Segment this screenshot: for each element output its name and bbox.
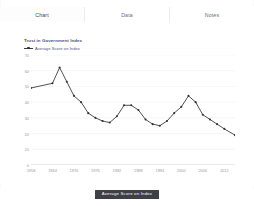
chart-plot-area[interactable] [31, 55, 235, 165]
x-axis-tick: 1976 [86, 168, 104, 173]
line-chart-svg [31, 55, 235, 165]
x-axis-tick: 1958 [22, 168, 40, 173]
y-axis-tick: 20 [18, 131, 29, 136]
x-axis-tick: 2012 [215, 168, 233, 173]
tab-notes[interactable]: Notes [170, 7, 254, 22]
legend-series-label: Average Score on Index [35, 46, 80, 51]
y-axis-tick: 40 [18, 100, 29, 105]
x-axis-tick: 1988 [129, 168, 147, 173]
y-axis-tick: 60 [18, 68, 29, 73]
tab-chart[interactable]: Chart [0, 7, 85, 22]
chart-title: Trust in Government Index [24, 38, 82, 43]
chart-viewer-window: Chart Data Notes Trust in Government Ind… [0, 0, 254, 206]
y-axis-tick: 30 [18, 115, 29, 120]
x-axis-tick: 2006 [194, 168, 212, 173]
y-axis-tick: 70 [18, 53, 29, 58]
tab-chart-label: Chart [35, 12, 48, 18]
tab-data-label: Data [121, 12, 133, 18]
tab-data[interactable]: Data [85, 7, 170, 22]
chart-panel: Trust in Government Index Average Score … [0, 22, 254, 184]
x-axis-tick: 1964 [43, 168, 61, 173]
x-axis-tick: 2000 [172, 168, 190, 173]
chart-legend: Average Score on Index [24, 46, 80, 51]
tab-notes-label: Notes [205, 12, 219, 18]
y-axis-tick: 10 [18, 147, 29, 152]
y-axis-tick: 50 [18, 84, 29, 89]
legend-line-marker-icon [24, 46, 33, 50]
x-axis-tick: 1970 [65, 168, 83, 173]
series-toggle-button[interactable]: Average Score on Index [95, 190, 159, 199]
legend-button-bar: Average Score on Index [0, 190, 254, 206]
tab-bar: Chart Data Notes [0, 7, 254, 23]
x-axis-tick: 1982 [108, 168, 126, 173]
x-axis-tick: 1994 [151, 168, 169, 173]
y-axis-tick: 0 [18, 163, 29, 168]
